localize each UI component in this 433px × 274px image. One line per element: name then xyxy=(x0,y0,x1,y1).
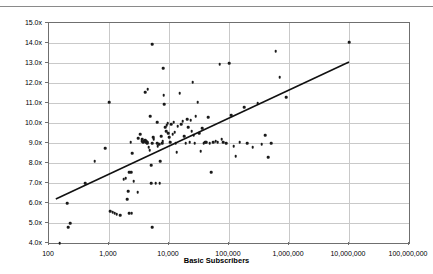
data-point xyxy=(198,132,201,135)
data-point xyxy=(230,114,233,117)
data-point xyxy=(146,141,149,144)
data-point xyxy=(130,171,133,174)
data-point xyxy=(246,142,249,145)
data-point xyxy=(169,141,172,144)
data-point xyxy=(194,142,197,145)
data-point xyxy=(184,142,187,145)
y-tick-label: 11.0x xyxy=(0,99,42,106)
y-tick-label: 14.0x xyxy=(0,39,42,46)
data-point xyxy=(232,145,235,148)
y-tick-label: 13.0x xyxy=(0,59,42,66)
data-point xyxy=(189,119,192,122)
data-point xyxy=(144,91,147,94)
data-point xyxy=(94,160,97,163)
data-point xyxy=(131,212,134,215)
data-point xyxy=(260,143,263,146)
data-point xyxy=(150,182,153,185)
data-point xyxy=(192,81,195,84)
data-point xyxy=(178,92,181,95)
data-point xyxy=(176,125,179,128)
data-point xyxy=(116,213,119,216)
y-tick-label: 12.0x xyxy=(0,79,42,86)
data-point xyxy=(238,141,241,144)
y-tick-label: 8.0x xyxy=(0,159,42,166)
data-point xyxy=(153,138,156,141)
data-point xyxy=(205,141,208,144)
data-point xyxy=(162,67,165,70)
data-point xyxy=(136,191,139,194)
data-point xyxy=(127,190,130,193)
data-point xyxy=(182,120,185,123)
data-point xyxy=(270,142,273,145)
data-point xyxy=(158,143,161,146)
data-point xyxy=(84,182,87,185)
data-point xyxy=(228,62,231,65)
data-point xyxy=(119,214,122,217)
top-divider-rule xyxy=(0,6,433,7)
data-point xyxy=(163,94,166,97)
gridline-vertical xyxy=(229,23,230,243)
data-point xyxy=(172,121,175,124)
y-tick-label: 6.0x xyxy=(0,199,42,206)
data-point xyxy=(150,164,153,167)
x-axis-title: Basic Subscribers xyxy=(0,256,433,265)
data-point xyxy=(151,226,154,229)
data-point xyxy=(149,149,152,152)
data-point xyxy=(168,136,171,139)
data-point xyxy=(104,147,107,150)
data-point xyxy=(188,141,191,144)
data-point xyxy=(348,41,351,44)
data-point xyxy=(58,242,61,245)
data-point xyxy=(154,182,157,185)
data-point xyxy=(196,101,199,104)
y-tick-label: 5.0x xyxy=(0,219,42,226)
data-point xyxy=(256,102,259,105)
data-point xyxy=(252,146,255,149)
data-point xyxy=(243,106,246,109)
data-point xyxy=(149,115,152,118)
data-point xyxy=(167,132,170,135)
data-point xyxy=(131,152,134,155)
y-tick-label: 10.0x xyxy=(0,119,42,126)
data-point xyxy=(156,121,159,124)
data-point xyxy=(187,126,190,129)
data-point xyxy=(175,142,178,145)
y-tick-label: 7.0x xyxy=(0,179,42,186)
data-point xyxy=(66,202,69,205)
data-point xyxy=(166,122,169,125)
data-point xyxy=(218,63,221,66)
data-point xyxy=(160,135,163,138)
data-point xyxy=(193,134,196,137)
data-point xyxy=(69,222,72,225)
data-point xyxy=(278,76,281,79)
data-point xyxy=(183,135,186,138)
data-point xyxy=(108,101,111,104)
y-tick-label: 15.0x xyxy=(0,19,42,26)
data-point xyxy=(67,226,70,229)
data-point xyxy=(129,141,132,144)
data-point xyxy=(209,142,212,145)
data-point xyxy=(146,88,149,91)
data-point xyxy=(126,198,129,201)
data-point xyxy=(264,134,267,137)
data-point xyxy=(158,182,161,185)
data-point xyxy=(195,115,198,118)
data-point xyxy=(216,141,219,144)
data-point xyxy=(163,103,166,106)
data-point xyxy=(124,177,127,180)
data-point xyxy=(285,96,288,99)
data-point xyxy=(225,142,228,145)
data-point xyxy=(207,116,210,119)
y-tick-label: 4.0x xyxy=(0,239,42,246)
scatter-chart: Multiple of Operating Cash Flow 4.0x5.0x… xyxy=(0,0,433,274)
gridline-vertical xyxy=(349,23,350,243)
data-point xyxy=(210,171,213,174)
gridline-vertical xyxy=(289,23,290,243)
data-point xyxy=(200,150,203,153)
plot-area xyxy=(48,22,410,244)
data-point xyxy=(267,156,270,159)
data-point xyxy=(186,118,189,121)
data-point xyxy=(235,155,238,158)
data-point xyxy=(159,160,162,163)
data-point xyxy=(162,140,165,143)
